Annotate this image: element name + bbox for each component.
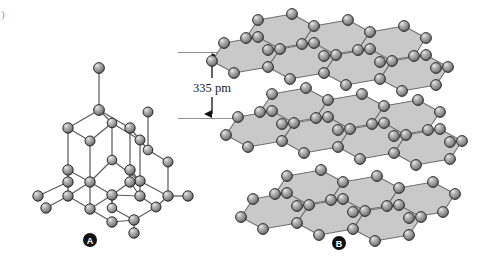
carbon-atom [382,201,393,212]
carbon-atom [365,44,376,55]
carbon-atom [309,21,320,32]
carbon-atom [221,130,232,141]
carbon-atom [233,112,244,123]
carbon-atom [365,27,376,38]
carbon-atom [323,95,334,106]
carbon-atom [338,177,349,188]
carbon-atom [63,177,73,187]
carbon-atom [125,177,135,187]
carbon-atom [375,57,386,68]
carbon-atom [287,9,298,20]
carbon-atom [292,201,303,212]
carbon-atom [275,44,286,55]
carbon-atom [341,80,352,91]
carbon-atom [404,230,415,241]
carbon-atom [348,207,359,218]
carbon-atom [370,236,381,247]
carbon-atom [394,183,405,194]
interlayer-distance-text: 335 pm [193,81,231,95]
carbon-atom [316,165,327,176]
carbon-atom [63,123,73,133]
carbon-atom [253,15,264,26]
carbon-atom [333,142,344,153]
carbon-atom [319,51,330,62]
panel-b-letter: B [336,239,343,249]
graphite-layer-1 [207,9,454,97]
carbon-allotropes-diagram: ) [0,0,484,260]
carbon-atom [372,171,383,182]
carbon-atom [379,101,390,112]
carbon-atom [301,83,312,94]
carbon-atom [163,157,173,167]
carbon-atom [333,125,344,136]
carbon-atom [389,148,400,159]
carbon-atom [229,68,240,79]
carbon-atom [219,38,230,49]
carbon-atom [125,123,135,133]
carbon-atom [63,165,73,175]
carbon-atom [267,106,278,117]
panel-a-label: A [83,233,97,247]
carbon-atom [282,171,293,182]
carbon-atom [85,177,95,187]
carbon-atom [428,177,439,188]
carbon-atom [135,135,145,145]
carbon-atom [443,62,454,73]
carbon-atom [135,176,145,186]
carbon-atom [277,119,288,130]
diamond-structure: A [33,63,193,247]
carbon-atom [387,56,398,67]
carbon-atom [394,200,405,211]
carbon-atom [107,203,117,213]
carbon-atom [270,189,281,200]
carbon-atom [94,63,105,74]
panel-b-label: B [332,236,346,250]
carbon-atom [143,107,153,117]
carbon-atom [241,33,252,44]
carbon-atom [263,45,274,56]
carbon-atom [435,107,446,118]
carbon-atom [367,119,378,130]
carbon-atom [107,190,117,200]
carbon-atom [289,118,300,129]
carbon-atom [343,15,354,26]
carbon-atom [323,112,334,123]
carbon-atom [345,124,356,135]
carbon-atom [421,33,432,44]
carbon-atom [297,39,308,50]
graphite-structure: B [207,9,468,250]
carbon-atom [107,118,117,128]
figure-canvas: ) [0,0,484,260]
carbon-atom [331,50,342,61]
carbon-atom [125,165,135,175]
carbon-atom [258,224,269,235]
carbon-atom [85,204,95,214]
carbon-atom [355,154,366,165]
carbon-atom [299,148,310,159]
carbon-atom [399,21,410,32]
carbon-atom [445,137,456,148]
carbon-atom [431,63,442,74]
carbon-atom [163,191,173,201]
carbon-atom [33,191,43,201]
carbon-atom [457,136,468,147]
carbon-atom [255,107,266,118]
carbon-atom [389,131,400,142]
carbon-atom [243,142,254,153]
carbon-atom [319,68,330,79]
carbon-atom [379,118,390,129]
carbon-atom [277,136,288,147]
carbon-atom [236,212,247,223]
carbon-atom [248,194,259,205]
carbon-atom [143,145,153,155]
carbon-atom [285,74,296,85]
carbon-atom [421,50,432,61]
carbon-atom [431,80,442,91]
carbon-atom [409,51,420,62]
carbon-atom [263,62,274,73]
carbon-atom [207,56,218,67]
page-edge-mark: ) [1,8,5,21]
carbon-atom [135,191,145,201]
graphite-layer-2 [221,83,468,171]
carbon-atom [253,32,264,43]
